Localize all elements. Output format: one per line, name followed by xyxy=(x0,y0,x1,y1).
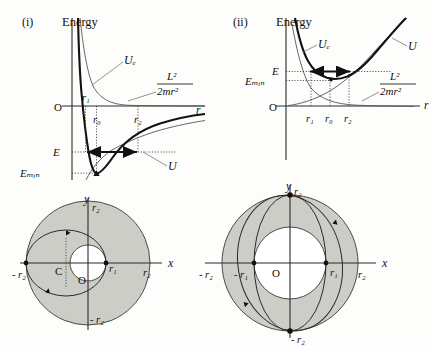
panel-ii-e-label: E xyxy=(271,65,279,77)
orbit-left-center-label: C xyxy=(55,265,62,277)
panel-i-centrifugal-leader xyxy=(128,92,156,101)
orbit-left-r2-right-label: r₂ xyxy=(143,267,151,278)
panel-ii-origin-label: O xyxy=(269,101,277,113)
orbit-right-r2-label: r₂ xyxy=(358,269,366,280)
panel-ii-x-axis-label: r xyxy=(424,99,429,111)
orbit-left-r1-label: r₁ xyxy=(109,263,117,274)
panel-ii-centrifugal-leader xyxy=(362,92,379,101)
orbit-left-y-axis-label: y xyxy=(83,192,90,206)
orbit-right-r1-marker xyxy=(324,261,329,266)
orbit-right-minus-r1-marker xyxy=(252,261,257,266)
panel-ii-r0-label: r₀ xyxy=(325,113,333,124)
panel-i-r0-label: r₀ xyxy=(93,114,101,125)
orbit-left-x-axis-label: x xyxy=(167,256,174,270)
panel-ii-u-leader xyxy=(392,38,407,46)
orbit-left-perihelion-marker xyxy=(104,261,109,266)
orbit-right-origin-label: O xyxy=(272,267,280,279)
panel-i-tag: (i) xyxy=(22,15,33,29)
orbit-right-r2-top-label: r₂ xyxy=(294,186,302,197)
panel-i-centrifugal-curve xyxy=(80,18,205,106)
orbit-right-r1-label: r₁ xyxy=(330,267,338,278)
panel-ii-centrifugal-numerator: L² xyxy=(389,70,400,82)
orbit-left-minus-r2-bottom-label: - r₂ xyxy=(90,314,104,325)
orbit-right-bottom-marker xyxy=(287,328,293,334)
panel-i-r2-label: r₂ xyxy=(134,114,142,125)
panel-i-emin-label: Eₘᵢₙ xyxy=(19,167,40,179)
panel-i-r1-label: r₁ xyxy=(82,92,90,103)
panel-i: (i) Energy O r r₁ r₀ r₂ E Eₘᵢₙ Uₑ xyxy=(19,15,205,180)
orbit-left-origin-label: O xyxy=(78,274,86,286)
panel-ii-r2-label: r₂ xyxy=(344,113,352,124)
orbit-right-minus-r2-bottom-label: - r₂ xyxy=(291,334,305,345)
orbit-diagram-right: x y - r₂ - r₁ r₁ r₂ r₂ - r₂ O xyxy=(199,179,388,345)
physics-figure: (i) Energy O r r₁ r₀ r₂ E Eₘᵢₙ Uₑ xyxy=(0,0,433,346)
panel-ii-r1-label: r₁ xyxy=(306,113,314,124)
orbit-right-y-axis-label: y xyxy=(285,179,292,193)
panel-ii-centrifugal-denominator: 2mr² xyxy=(380,85,402,97)
panel-ii-ue-label: Uₑ xyxy=(318,37,330,51)
panel-i-ue-leader xyxy=(92,62,123,85)
panel-i-e-label: E xyxy=(52,146,60,158)
orbit-diagram-left: x y - r₂ r₁ r₂ r₂ - r₂ C O xyxy=(12,192,174,330)
panel-i-u-label: U xyxy=(168,159,178,173)
panel-ii-emin-label: Eₘᵢₙ xyxy=(244,75,265,87)
orbit-right-x-axis-label: x xyxy=(381,256,388,270)
panel-ii: (ii) Energy O r E Eₘᵢₙ r₁ r₀ r₂ Uₑ xyxy=(233,15,429,160)
orbit-right-top-marker xyxy=(287,192,293,198)
panel-ii-u-label: U xyxy=(408,39,418,53)
panel-ii-ue-leader xyxy=(303,45,317,52)
orbit-right-minus-r2-label: - r₂ xyxy=(199,269,213,280)
panel-i-ue-label: Uₑ xyxy=(124,53,136,67)
panel-i-origin-label: O xyxy=(54,101,62,113)
orbit-right-minus-r1-label: - r₁ xyxy=(234,269,248,280)
orbit-left-aphelion-marker xyxy=(24,261,29,266)
panel-ii-energy-axis-label: Energy xyxy=(276,15,313,29)
panel-i-centrifugal-numerator: L² xyxy=(166,70,177,82)
panel-i-u-leader xyxy=(143,152,167,166)
orbit-left-r2-top-label: r₂ xyxy=(92,202,100,213)
panel-ii-tag: (ii) xyxy=(233,15,248,29)
orbit-left-minus-r2-label: - r₂ xyxy=(12,269,26,280)
panel-i-centrifugal-denominator: 2mr² xyxy=(157,85,179,97)
panel-i-ue-curve xyxy=(78,18,205,173)
panel-ii-minimum-marker xyxy=(329,78,333,82)
